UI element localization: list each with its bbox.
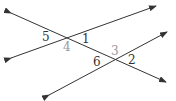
transversal-line <box>11 13 166 82</box>
angle-label-2: 2 <box>128 53 136 67</box>
angle-label-4: 4 <box>63 40 71 54</box>
angle-label-3: 3 <box>111 44 119 58</box>
angle-label-5: 5 <box>42 30 50 44</box>
angle-label-1: 1 <box>82 32 90 46</box>
angle-diagram: 5 1 4 3 6 2 <box>0 0 176 101</box>
angle-label-6: 6 <box>93 55 101 69</box>
